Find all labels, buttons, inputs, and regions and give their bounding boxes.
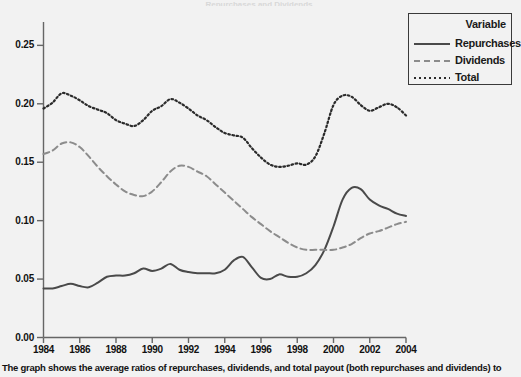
legend-label-repurchases: Repurchases [455,35,521,51]
x-tick-label: 2002 [350,344,390,355]
x-tick-label: 1996 [241,344,281,355]
legend-swatch-dotted-icon [414,77,450,79]
y-axis-ticks [37,45,44,337]
y-tick-label: 0.10 [0,215,34,226]
x-tick-label: 1994 [205,344,245,355]
figure-caption: The graph shows the average ratios of re… [2,362,516,373]
y-tick-label: 0.25 [0,39,34,50]
x-tick-label: 2000 [314,344,354,355]
y-tick-label: 0.20 [0,98,34,109]
legend-item-dividends[interactable]: Dividends [414,52,507,68]
x-tick-label: 1988 [96,344,136,355]
y-tick-label: 0.00 [0,332,34,343]
data-series-group [44,93,407,289]
x-tick-label: 1984 [24,344,64,355]
x-axis-ticks [44,338,407,344]
legend-label-dividends: Dividends [455,52,505,68]
x-tick-label: 2004 [386,344,426,355]
x-tick-label: 1992 [169,344,209,355]
series-line-repurchases [44,187,407,289]
legend-item-repurchases[interactable]: Repurchases [414,35,507,51]
axis-group [37,22,406,343]
y-tick-label: 0.05 [0,273,34,284]
series-line-total [44,93,407,167]
chart-legend: Variable Repurchases Dividends Total [408,13,512,85]
legend-label-total: Total [455,69,479,85]
legend-title: Variable [465,18,506,30]
series-line-dividends [44,142,407,250]
x-tick-label: 1990 [132,344,172,355]
legend-item-total[interactable]: Total [414,69,507,85]
legend-swatch-dashed-icon [414,60,450,62]
x-tick-label: 1998 [277,344,317,355]
y-tick-label: 0.15 [0,156,34,167]
legend-swatch-solid-icon [414,43,450,45]
x-tick-label: 1986 [60,344,100,355]
